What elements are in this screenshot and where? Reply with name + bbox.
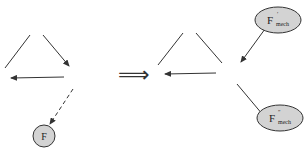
left-edge-line xyxy=(5,35,30,68)
right-bottom-edge-arrow xyxy=(165,73,216,74)
node-f-mech-prime: F ′ mech xyxy=(255,7,301,33)
dashed-arrow xyxy=(50,89,73,124)
right-right-edge-line xyxy=(196,33,222,63)
mech-double-prime-line xyxy=(237,84,263,115)
node-f-mech-prime-base: F xyxy=(267,14,273,26)
node-f-mech-double-prime-sub: mech xyxy=(278,119,291,125)
bottom-edge-arrow xyxy=(11,77,64,78)
node-f-label: F xyxy=(41,131,47,142)
right-left-edge-line xyxy=(158,33,183,65)
node-f-mech-double-prime-base: F xyxy=(269,112,275,124)
right-edge-arrow xyxy=(43,35,69,66)
left-diagram: F xyxy=(5,35,73,147)
node-f: F xyxy=(33,125,55,147)
mech-prime-arrow xyxy=(241,29,265,62)
node-f-mech-prime-sub: mech xyxy=(276,21,289,27)
implies-arrow: ⟹ xyxy=(118,62,150,87)
node-f-mech-double-prime: F ″ mech xyxy=(257,105,303,131)
diagram-canvas: F ⟹ F ′ mech F ″ mech xyxy=(0,0,308,153)
right-diagram: F ′ mech F ″ mech xyxy=(158,7,303,131)
